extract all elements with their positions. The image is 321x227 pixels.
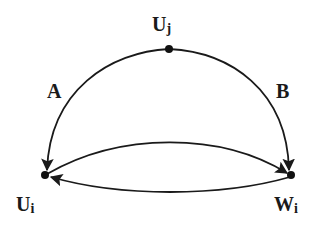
label-wi: Wi [274,193,298,216]
label-uj: Uj [152,13,171,36]
label-ui: Ui [16,193,34,216]
node-wi [287,171,295,179]
edge-wi-to-ui [51,177,290,192]
edge-label-a: A [47,80,62,102]
node-ui [41,171,49,179]
edge-b-uj-to-wi [169,49,289,170]
node-uj [165,45,173,53]
diagram-canvas: Uj Ui Wi A B [0,0,321,227]
edge-a-uj-to-ui [47,49,169,170]
edge-label-b: B [276,80,289,102]
edge-ui-to-wi [47,142,287,174]
